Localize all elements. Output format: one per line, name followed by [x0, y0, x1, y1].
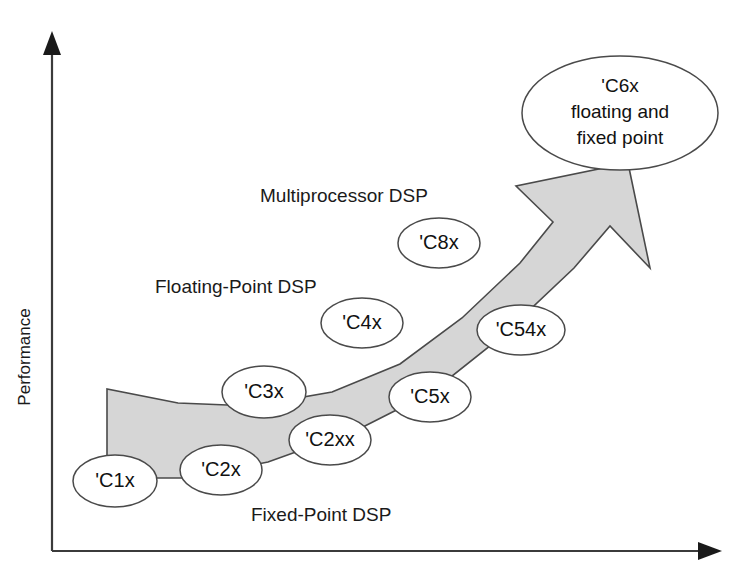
node-c3x[interactable]: 'C3x [222, 366, 306, 418]
node-c4x-label: 'C4x [342, 311, 381, 333]
node-c5x-label: 'C5x [410, 385, 449, 407]
x-axis-arrowhead [698, 542, 722, 560]
node-c5x[interactable]: 'C5x [389, 372, 471, 422]
region-label-fixed-point: Fixed-Point DSP [251, 504, 391, 525]
node-c8x-label: 'C8x [419, 231, 458, 253]
node-c3x-label: 'C3x [244, 380, 283, 402]
region-label-floating-point: Floating-Point DSP [155, 276, 317, 297]
node-c2xx-label: 'C2xx [305, 428, 354, 450]
node-c1x-label: 'C1x [95, 469, 134, 491]
callout-c6x-line-2: floating and [571, 101, 669, 122]
node-c4x[interactable]: 'C4x [321, 298, 403, 348]
node-c2x-label: 'C2x [201, 458, 240, 480]
callout-c6x-line-3: fixed point [577, 127, 664, 148]
callout-c6x[interactable]: 'C6x floating and fixed point [522, 56, 718, 170]
diagram-canvas: Performance Multiprocessor DSP Floating-… [0, 0, 748, 581]
region-label-multiprocessor: Multiprocessor DSP [260, 185, 428, 206]
callout-c6x-line-1: 'C6x [601, 75, 639, 96]
node-c2xx[interactable]: 'C2xx [289, 415, 371, 465]
node-c2x[interactable]: 'C2x [180, 445, 262, 495]
y-axis-arrowhead [43, 31, 61, 55]
y-axis-title: Performance [15, 308, 34, 405]
node-c54x-label: 'C54x [496, 318, 547, 340]
dsp-performance-diagram: Performance Multiprocessor DSP Floating-… [0, 0, 748, 581]
node-c54x[interactable]: 'C54x [477, 305, 565, 355]
node-c1x[interactable]: 'C1x [73, 455, 157, 507]
node-c8x[interactable]: 'C8x [398, 218, 480, 268]
